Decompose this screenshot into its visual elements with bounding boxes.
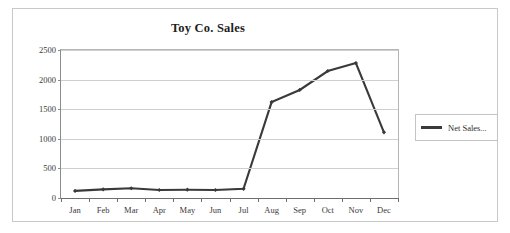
x-axis-tick-label: Dec — [377, 205, 391, 215]
gridline — [61, 168, 398, 169]
x-axis-tick-mark — [117, 198, 118, 202]
series-line — [75, 63, 384, 191]
x-axis-tick-mark — [342, 198, 343, 202]
x-axis-tick-mark — [173, 198, 174, 202]
plot-area[interactable]: 05001000150020002500JanFebMarAprMayJunJu… — [60, 49, 399, 199]
data-point-marker — [73, 189, 77, 193]
x-axis-tick-label: Aug — [264, 205, 279, 215]
y-axis-tick-label: 500 — [43, 163, 56, 173]
chart-legend[interactable]: Net Sales... — [415, 114, 498, 141]
x-axis-tick-mark — [258, 198, 259, 202]
y-axis-tick-label: 2500 — [39, 45, 56, 55]
x-axis-tick-mark — [286, 198, 287, 202]
x-axis-tick-label: Mar — [124, 205, 138, 215]
x-axis-tick-mark — [230, 198, 231, 202]
data-point-marker — [185, 188, 189, 192]
x-axis-tick-label: May — [180, 205, 196, 215]
x-axis-tick-mark — [61, 198, 62, 202]
y-axis-tick-label: 2000 — [39, 75, 56, 85]
x-axis-tick-mark — [314, 198, 315, 202]
x-axis-tick-mark — [89, 198, 90, 202]
gridline — [61, 109, 398, 110]
x-axis-tick-mark — [201, 198, 202, 202]
y-axis-tick-label: 0 — [52, 193, 56, 203]
chart-title: Toy Co. Sales — [13, 21, 403, 36]
x-axis-tick-label: Jun — [210, 205, 222, 215]
x-axis-tick-label: Nov — [349, 205, 364, 215]
x-axis-tick-mark — [370, 198, 371, 202]
x-axis-tick-mark — [145, 198, 146, 202]
gridline — [61, 139, 398, 140]
series-net-sales[interactable] — [61, 50, 398, 198]
legend-line-swatch-icon — [421, 126, 442, 129]
data-point-marker — [213, 188, 217, 192]
gridline — [61, 80, 398, 81]
gridline — [61, 50, 398, 51]
y-axis-tick-mark — [58, 139, 61, 140]
x-axis-tick-label: Feb — [97, 205, 110, 215]
legend-item-label: Net Sales... — [448, 123, 487, 133]
data-point-marker — [129, 186, 133, 190]
x-axis-tick-label: Jul — [239, 205, 249, 215]
y-axis-tick-mark — [58, 50, 61, 51]
chart-screenshot: Toy Co. Sales 05001000150020002500JanFeb… — [0, 0, 510, 233]
y-axis-tick-mark — [58, 80, 61, 81]
x-axis-tick-label: Sep — [293, 205, 306, 215]
data-point-marker — [101, 187, 105, 191]
x-axis-tick-label: Apr — [153, 205, 166, 215]
y-axis-tick-label: 1000 — [39, 134, 56, 144]
x-axis-tick-mark — [398, 198, 399, 202]
y-axis-tick-label: 1500 — [39, 104, 56, 114]
x-axis-tick-label: Oct — [322, 205, 334, 215]
y-axis-tick-mark — [58, 109, 61, 110]
x-axis-tick-label: Jan — [69, 205, 80, 215]
data-point-marker — [157, 188, 161, 192]
y-axis-tick-mark — [58, 168, 61, 169]
